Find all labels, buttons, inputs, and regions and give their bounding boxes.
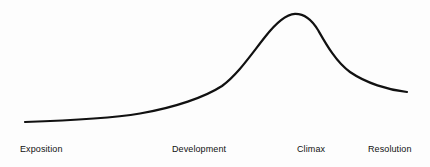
stage-label-development: Development	[172, 144, 226, 155]
narrative-arc-curve-svg	[0, 0, 430, 167]
stage-label-exposition: Exposition	[20, 144, 63, 155]
stage-label-resolution: Resolution	[368, 144, 412, 155]
stage-label-climax: Climax	[297, 144, 325, 155]
narrative-arc-diagram: Exposition Development Climax Resolution	[0, 0, 430, 167]
dramatic-tension-curve	[25, 14, 407, 122]
